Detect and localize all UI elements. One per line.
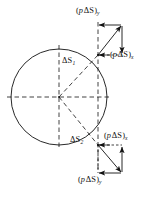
- label-bottom-y-component: (p ΔS)y: [78, 176, 101, 184]
- label-p-symbol: p: [107, 131, 111, 140]
- circle-center-point: [58, 96, 60, 98]
- label-top-x-component: (p ΔS)x: [110, 51, 133, 59]
- lower-contact-point: [97, 144, 99, 146]
- label-delta-s-lower: ΔS2: [70, 136, 83, 144]
- label-delta-s-symbol: ΔS: [70, 135, 80, 144]
- figure-container: (p ΔS)y (p ΔS)x (p ΔS)x (p ΔS)y ΔS1 ΔS2: [0, 0, 155, 197]
- label-delta-s: ΔS: [118, 50, 128, 59]
- label-delta-s: ΔS: [86, 175, 96, 184]
- label-p-symbol: p: [81, 175, 85, 184]
- label-p-symbol: p: [113, 50, 117, 59]
- label-bottom-x-component: (p ΔS)x: [104, 132, 127, 140]
- label-subscript: x: [131, 54, 133, 60]
- label-delta-s-symbol: ΔS: [62, 56, 72, 65]
- upper-contact-point: [97, 54, 99, 56]
- label-subscript: x: [125, 135, 127, 141]
- label-top-y-component: (p ΔS)y: [76, 7, 99, 15]
- label-subscript: y: [99, 179, 101, 185]
- label-p-symbol: p: [79, 6, 83, 15]
- figure-diagram: [0, 0, 155, 197]
- label-delta-s: ΔS: [112, 131, 122, 140]
- label-subscript: y: [97, 10, 99, 16]
- label-delta-s: ΔS: [84, 6, 94, 15]
- label-subscript: 2: [80, 139, 83, 145]
- lower-resultant-vector: [98, 145, 121, 172]
- label-subscript: 1: [72, 60, 75, 66]
- label-delta-s-upper: ΔS1: [62, 57, 75, 65]
